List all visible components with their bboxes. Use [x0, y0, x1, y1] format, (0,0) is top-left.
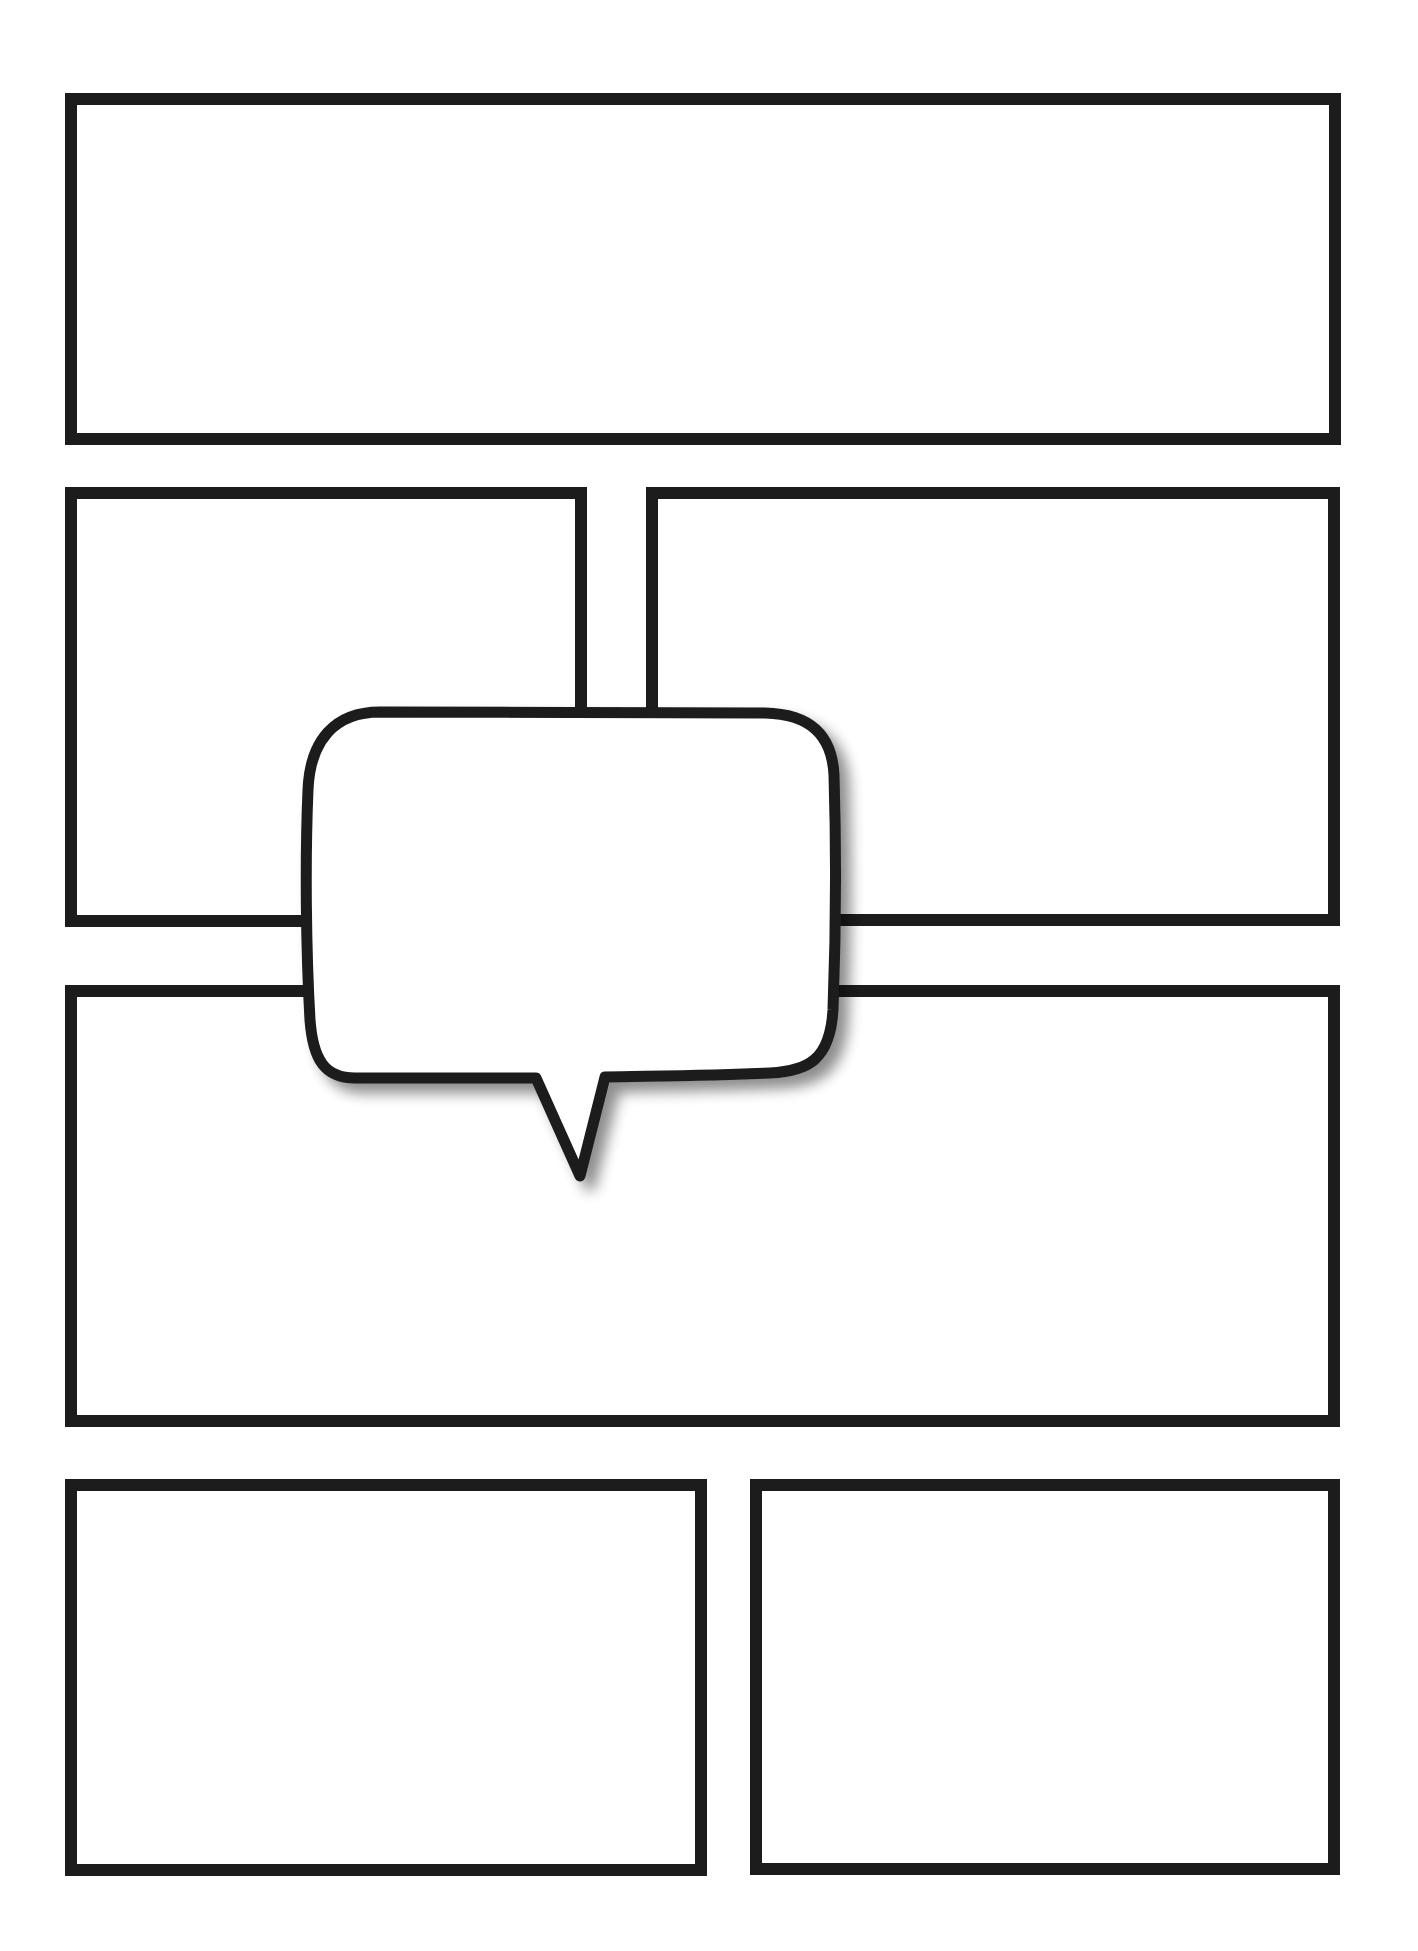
speech-bubble [0, 0, 1418, 1951]
speech-bubble-shape [306, 712, 835, 1176]
comic-page [0, 0, 1418, 1951]
